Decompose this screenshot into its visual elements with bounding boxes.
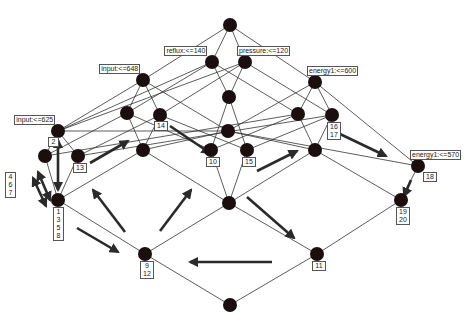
- object-number-label: 2: [48, 137, 59, 147]
- object-number-label: 11: [312, 261, 326, 271]
- lattice-edge: [317, 200, 401, 254]
- lattice-node[interactable]: [308, 143, 322, 157]
- arrow-icon: [90, 141, 128, 163]
- lattice-node[interactable]: [136, 73, 150, 87]
- lattice-node[interactable]: [204, 143, 218, 157]
- arrow-icon: [404, 180, 411, 196]
- lattice-edge: [315, 150, 401, 200]
- object-number-label: 1617: [327, 122, 341, 140]
- lattice-edge: [58, 200, 145, 254]
- node-attribute-label: reflux:<=140: [164, 46, 207, 56]
- object-number-label: 15: [242, 157, 256, 167]
- lattice-node[interactable]: [51, 193, 65, 207]
- lattice-edge: [145, 203, 229, 254]
- node-attribute-label: energy1:<=600: [307, 66, 358, 76]
- arrow-icon: [93, 190, 125, 232]
- lattice-node[interactable]: [310, 247, 324, 261]
- lattice-node[interactable]: [153, 108, 167, 122]
- object-number-label: 912: [140, 261, 154, 279]
- object-number-label: 10: [206, 157, 220, 167]
- arrow-icon: [77, 228, 118, 252]
- node-attribute-label: energy1:<=570: [410, 150, 461, 160]
- lattice-node[interactable]: [222, 196, 236, 210]
- lattice-node[interactable]: [205, 55, 219, 69]
- node-attribute-label: input:<=648: [99, 64, 140, 74]
- arrow-icon: [160, 190, 191, 231]
- object-number-label: 18: [423, 172, 437, 182]
- object-number-label: 14: [154, 121, 168, 131]
- node-attribute-label: pressure:<=120: [237, 46, 290, 56]
- arrow-icon: [33, 178, 46, 206]
- lattice-node[interactable]: [223, 18, 237, 32]
- arrow-icon: [38, 172, 50, 200]
- transition-arrows: [33, 126, 411, 262]
- lattice-node[interactable]: [325, 108, 339, 122]
- lattice-edge: [45, 114, 298, 156]
- lattice-node[interactable]: [238, 55, 252, 69]
- lattice-node[interactable]: [411, 159, 425, 173]
- object-number-label: 1920: [396, 207, 410, 225]
- lattice-node[interactable]: [223, 298, 237, 312]
- lattice-edge: [58, 62, 245, 131]
- lattice-node[interactable]: [308, 75, 322, 89]
- lattice-node[interactable]: [136, 143, 150, 157]
- object-number-label: 1358: [53, 207, 64, 241]
- lattice-node[interactable]: [222, 90, 236, 104]
- lattice-edge: [229, 203, 317, 254]
- object-number-label: 467: [5, 172, 16, 198]
- arrow-icon: [170, 126, 210, 153]
- lattice-edge: [229, 97, 247, 150]
- lattice-node[interactable]: [221, 124, 235, 138]
- lattice-node[interactable]: [291, 107, 305, 121]
- lattice-node[interactable]: [51, 124, 65, 138]
- lattice-node[interactable]: [71, 149, 85, 163]
- lattice-node[interactable]: [38, 149, 52, 163]
- lattice-node[interactable]: [138, 247, 152, 261]
- node-attribute-label: input:<=625: [14, 115, 55, 125]
- arrow-icon: [257, 151, 297, 171]
- lattice-node[interactable]: [120, 106, 134, 120]
- lattice-node[interactable]: [240, 143, 254, 157]
- lattice-node[interactable]: [394, 193, 408, 207]
- lattice-nodes: [38, 18, 425, 312]
- lattice-edge: [228, 131, 418, 166]
- object-number-label: 13: [73, 163, 87, 173]
